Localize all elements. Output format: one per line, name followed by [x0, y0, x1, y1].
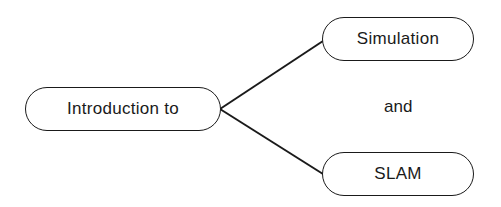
edge-root-slam — [220, 109, 323, 174]
node-simulation: Simulation — [322, 17, 474, 61]
connector-label-and: and — [384, 97, 412, 117]
node-introduction-label: Introduction to — [67, 99, 179, 119]
edge-root-simulation — [220, 41, 323, 109]
node-introduction: Introduction to — [25, 87, 221, 131]
node-slam-label: SLAM — [374, 164, 422, 184]
node-slam: SLAM — [322, 152, 474, 196]
node-simulation-label: Simulation — [357, 29, 439, 49]
